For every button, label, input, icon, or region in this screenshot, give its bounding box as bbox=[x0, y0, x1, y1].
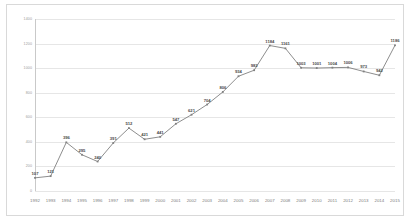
x-axis-tick-label: 2007 bbox=[265, 198, 275, 203]
data-point-marker bbox=[300, 67, 302, 69]
chart-frame: 0200400600800100012001400 10712139629524… bbox=[6, 4, 404, 216]
y-axis-tick-label: 0 bbox=[30, 189, 32, 193]
data-point-label: 973 bbox=[360, 64, 367, 69]
x-axis-tick-label: 2008 bbox=[281, 198, 291, 203]
x-axis-tick-label: 1993 bbox=[46, 198, 56, 203]
data-point-marker bbox=[128, 127, 130, 129]
data-point-marker bbox=[144, 138, 146, 140]
x-axis-tick-label: 2012 bbox=[343, 198, 353, 203]
data-point-marker bbox=[331, 67, 333, 69]
data-point-label: 621 bbox=[188, 108, 195, 113]
data-point-label: 121 bbox=[47, 169, 54, 174]
y-axis-tick-label: 400 bbox=[26, 140, 32, 144]
data-point-label: 1003 bbox=[297, 61, 306, 66]
data-point-label: 295 bbox=[79, 148, 86, 153]
x-axis-tick-label: 1992 bbox=[30, 198, 40, 203]
x-axis-tick-label: 2004 bbox=[218, 198, 228, 203]
y-axis-tick-label: 800 bbox=[26, 91, 32, 95]
data-point-label: 942 bbox=[376, 68, 383, 73]
x-axis-tick-label: 2003 bbox=[202, 198, 212, 203]
series-line bbox=[35, 45, 395, 178]
data-point-label: 806 bbox=[219, 85, 226, 90]
y-axis-tick-label: 1400 bbox=[24, 17, 32, 21]
x-axis-tick-label: 2001 bbox=[171, 198, 181, 203]
data-point-marker bbox=[50, 175, 52, 177]
data-point-label: 1184 bbox=[265, 39, 274, 44]
y-axis-tick-label: 1200 bbox=[24, 42, 32, 46]
data-point-marker bbox=[206, 104, 208, 106]
y-axis-tick-label: 1000 bbox=[24, 66, 32, 70]
data-point-label: 934 bbox=[235, 69, 242, 74]
data-point-marker bbox=[222, 91, 224, 93]
x-axis-tick-label: 2010 bbox=[312, 198, 322, 203]
data-point-label: 441 bbox=[157, 130, 164, 135]
data-point-label: 1161 bbox=[281, 41, 290, 46]
x-axis-tick-label: 2014 bbox=[374, 198, 384, 203]
data-point-label: 983 bbox=[251, 63, 258, 68]
gridline bbox=[35, 191, 395, 192]
data-point-marker bbox=[97, 161, 99, 163]
data-point-marker bbox=[238, 75, 240, 77]
data-point-marker bbox=[159, 136, 161, 138]
data-point-marker bbox=[394, 44, 396, 46]
x-axis-tick-label: 2009 bbox=[296, 198, 306, 203]
data-point-marker bbox=[316, 67, 318, 69]
x-axis-tick-label: 2011 bbox=[328, 198, 337, 203]
data-point-marker bbox=[363, 71, 365, 73]
x-axis-tick-label: 2000 bbox=[155, 198, 165, 203]
x-axis-tick-label: 2005 bbox=[234, 198, 244, 203]
x-axis-tick-label: 1997 bbox=[108, 198, 118, 203]
x-axis-tick-label: 2002 bbox=[187, 198, 197, 203]
data-point-marker bbox=[253, 69, 255, 71]
data-point-label: 547 bbox=[172, 117, 179, 122]
data-point-marker bbox=[175, 123, 177, 125]
x-axis-tick-label: 2015 bbox=[390, 198, 400, 203]
x-axis-tick-label: 1999 bbox=[140, 198, 150, 203]
data-point-label: 240 bbox=[94, 155, 101, 160]
data-point-marker bbox=[285, 47, 287, 49]
y-axis-tick-label: 200 bbox=[26, 164, 32, 168]
data-point-marker bbox=[34, 177, 36, 179]
x-axis-tick-label: 2006 bbox=[249, 198, 259, 203]
x-axis-tick-label: 1996 bbox=[93, 198, 103, 203]
data-point-label: 396 bbox=[63, 135, 70, 140]
data-point-label: 1004 bbox=[328, 61, 337, 66]
y-axis-tick-label: 600 bbox=[26, 115, 32, 119]
data-point-marker bbox=[378, 74, 380, 76]
data-point-marker bbox=[347, 67, 349, 69]
data-point-label: 512 bbox=[125, 121, 132, 126]
data-point-label: 1006 bbox=[343, 60, 352, 65]
series-line-chart bbox=[35, 19, 395, 191]
data-point-marker bbox=[112, 142, 114, 144]
x-axis-tick-label: 2013 bbox=[359, 198, 369, 203]
data-point-marker bbox=[191, 114, 193, 116]
data-point-label: 1001 bbox=[312, 61, 321, 66]
x-axis-tick-label: 1994 bbox=[61, 198, 71, 203]
x-axis-tick-label: 1998 bbox=[124, 198, 134, 203]
data-point-marker bbox=[81, 154, 83, 156]
data-point-label: 704 bbox=[204, 98, 211, 103]
data-point-marker bbox=[65, 141, 67, 143]
data-point-label: 391 bbox=[110, 136, 117, 141]
plot-area: 0200400600800100012001400 10712139629524… bbox=[35, 19, 395, 191]
data-point-label: 107 bbox=[32, 171, 39, 176]
data-point-label: 421 bbox=[141, 132, 148, 137]
data-point-marker bbox=[269, 45, 271, 47]
x-axis-tick-label: 1995 bbox=[77, 198, 87, 203]
data-point-label: 1186 bbox=[391, 38, 400, 43]
